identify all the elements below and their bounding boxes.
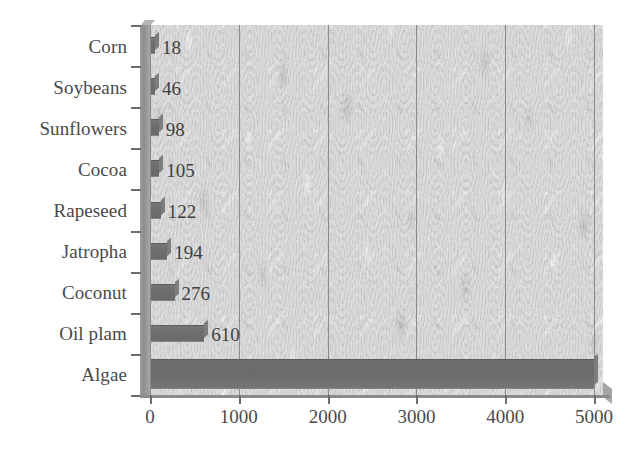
x-axis-tick-label-5000: 5000	[575, 407, 613, 426]
y-axis-label-coconut: Coconut	[62, 283, 127, 302]
value-label-jatropha: 194	[174, 243, 203, 262]
y-axis-tick	[131, 354, 141, 356]
y-axis-tick	[131, 189, 141, 191]
bar-sunflowers	[150, 119, 159, 136]
y-axis-tick	[131, 231, 141, 233]
value-label-rapeseed: 122	[168, 202, 197, 221]
value-label-oil-plam: 610	[211, 325, 240, 344]
x-axis-tick-label-0: 0	[145, 407, 155, 426]
y-axis-label-cocoa: Cocoa	[78, 159, 127, 178]
gridline-4000	[505, 25, 506, 395]
x-axis-tick-1000	[239, 395, 241, 404]
y-axis-tick	[131, 25, 141, 27]
bar-rapeseed	[150, 202, 161, 219]
y-axis-label-oil-plam: Oil plam	[59, 324, 127, 343]
bar-jatropha	[150, 243, 167, 260]
bar-cocoa	[150, 160, 159, 177]
x-axis-tick-5000	[594, 395, 596, 404]
bar-chart: CornSoybeansSunflowersCocoaRapeseedJatro…	[0, 0, 643, 452]
x-axis-tick-0	[150, 395, 152, 404]
bar-oil-plam	[150, 325, 204, 342]
x-axis-tick-3000	[416, 395, 418, 404]
y-axis-tick	[131, 107, 141, 109]
y-axis-tick	[131, 66, 141, 68]
value-label-sunflowers: 98	[166, 119, 185, 138]
y-axis-label-sunflowers: Sunflowers	[39, 118, 127, 137]
bar-coconut	[150, 284, 175, 301]
x-axis-tick-4000	[505, 395, 507, 404]
y-axis-tick	[131, 272, 141, 274]
value-label-corn: 18	[162, 37, 181, 56]
value-label-coconut: 276	[182, 284, 211, 303]
x-axis-tick-2000	[328, 395, 330, 404]
x-axis-tick-label-3000: 3000	[397, 407, 435, 426]
bar-algae	[150, 359, 594, 389]
y-axis-tick	[131, 313, 141, 315]
gridline-2000	[328, 25, 329, 395]
x-axis-tick-label-2000: 2000	[309, 407, 347, 426]
gridline-3000	[416, 25, 417, 395]
value-label-soybeans: 46	[162, 78, 181, 97]
y-axis-label-soybeans: Soybeans	[53, 77, 127, 96]
y-axis-label-algae: Algae	[81, 365, 127, 384]
y-axis-tick	[131, 148, 141, 150]
y-axis-labels: CornSoybeansSunflowersCocoaRapeseedJatro…	[0, 25, 131, 395]
y-axis-wall	[140, 25, 151, 395]
y-axis-label-corn: Corn	[89, 36, 127, 55]
y-axis-label-jatropha: Jatropha	[62, 242, 127, 261]
value-label-cocoa: 105	[166, 160, 195, 179]
x-axis-line	[140, 395, 610, 398]
x-axis-tick-label-4000: 4000	[486, 407, 524, 426]
x-axis-corner-face	[603, 382, 612, 404]
gridline-5000	[594, 25, 595, 395]
y-axis-label-rapeseed: Rapeseed	[53, 201, 127, 220]
x-axis-tick-label-1000: 1000	[220, 407, 258, 426]
